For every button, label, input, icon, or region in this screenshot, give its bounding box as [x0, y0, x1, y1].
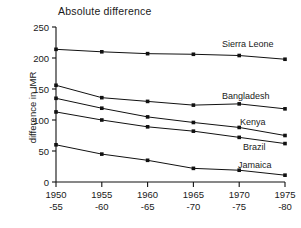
- x-axis: 1950-551955-601960-651965-701970-751975-…: [45, 182, 295, 212]
- chart-plot: 050100150200250 1950-551955-601960-65196…: [0, 0, 301, 228]
- data-point-marker: [146, 125, 150, 129]
- x-tick-label-year: 1975: [274, 189, 295, 200]
- x-tick-label-range: -70: [187, 201, 201, 212]
- y-tick-label: 250: [33, 22, 49, 33]
- data-point-marker: [283, 173, 287, 177]
- chart-container: Absolute difference difference in IMR 05…: [0, 0, 301, 228]
- data-point-marker: [283, 142, 287, 146]
- y-tick-label: 150: [33, 84, 49, 95]
- x-tick-label-year: 1960: [137, 189, 158, 200]
- series-label: Sierra Leone: [222, 39, 274, 49]
- data-point-marker: [283, 134, 287, 138]
- data-point-marker: [237, 54, 241, 58]
- x-tick-label-range: -55: [49, 201, 63, 212]
- data-point-marker: [54, 83, 58, 87]
- data-point-marker: [54, 48, 58, 52]
- data-point-marker: [54, 97, 58, 101]
- data-point-marker: [192, 167, 196, 171]
- data-point-marker: [146, 52, 150, 56]
- data-point-marker: [192, 103, 196, 107]
- data-point-marker: [100, 118, 104, 122]
- x-tick-label-range: -65: [141, 201, 155, 212]
- y-axis: 050100150200250: [33, 22, 56, 188]
- x-tick-label-range: -75: [232, 201, 246, 212]
- series-label: Jamaica: [238, 160, 272, 170]
- data-point-marker: [146, 100, 150, 104]
- series-label: Bangladesh: [222, 91, 270, 101]
- y-tick-label: 0: [44, 177, 49, 188]
- data-point-marker: [192, 52, 196, 56]
- series-label: Brazil: [243, 142, 266, 152]
- data-point-marker: [146, 159, 150, 163]
- data-point-marker: [54, 143, 58, 147]
- series-layer: [54, 48, 287, 177]
- data-point-marker: [146, 115, 150, 119]
- x-tick-label-year: 1950: [45, 189, 66, 200]
- data-point-marker: [237, 136, 241, 140]
- x-tick-label-range: -80: [278, 201, 292, 212]
- y-tick-label: 100: [33, 115, 49, 126]
- data-point-marker: [54, 110, 58, 114]
- data-point-marker: [100, 96, 104, 100]
- x-tick-label-year: 1965: [183, 189, 204, 200]
- data-point-marker: [283, 57, 287, 61]
- data-point-marker: [100, 50, 104, 54]
- data-point-marker: [192, 129, 196, 133]
- data-point-marker: [283, 107, 287, 111]
- x-tick-label-year: 1955: [91, 189, 112, 200]
- data-point-marker: [100, 152, 104, 156]
- data-point-marker: [192, 121, 196, 125]
- x-tick-label-year: 1970: [229, 189, 250, 200]
- series-line: [56, 49, 285, 59]
- series-label: Kenya: [240, 117, 266, 127]
- data-point-marker: [237, 102, 241, 106]
- y-tick-label: 50: [38, 146, 49, 157]
- y-tick-label: 200: [33, 53, 49, 64]
- data-point-marker: [100, 106, 104, 110]
- x-tick-label-range: -60: [95, 201, 109, 212]
